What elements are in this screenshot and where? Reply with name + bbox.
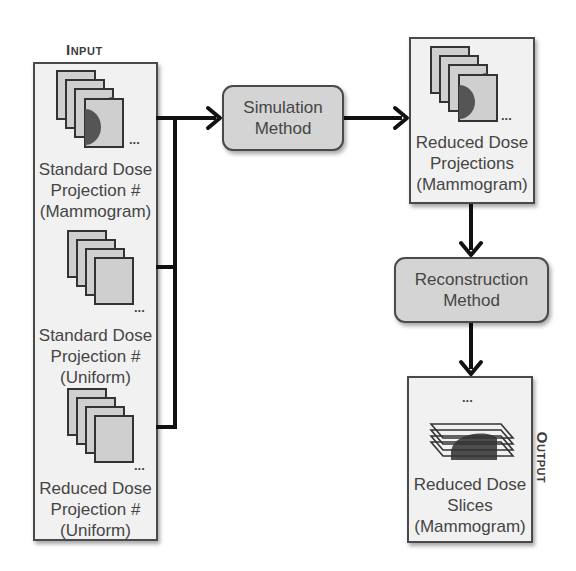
output-line3: (Mammogram) (409, 516, 531, 537)
simulation-line2: Method (255, 118, 312, 139)
output-line1: Reduced Dose (409, 474, 531, 495)
simulation-method-box: Simulation Method (222, 85, 344, 151)
simulation-line1: Simulation (243, 97, 322, 118)
output-ellipsis: ... (462, 390, 473, 405)
stacked-slices-icon (429, 424, 519, 469)
reconstruction-line2: Method (443, 290, 500, 311)
reduced-projections-line1: Reduced Dose (411, 132, 533, 153)
reduced-projections-ellipsis: ... (501, 108, 512, 123)
mammogram-stack-icon (431, 47, 531, 137)
output-line2: Slices (409, 495, 531, 516)
reconstruction-line1: Reconstruction (415, 269, 528, 290)
reduced-projections-line3: (Mammogram) (411, 174, 533, 195)
output-title: Output (534, 428, 551, 488)
output-box: ... Reduced Dose Slices (Mammogram) (407, 376, 533, 543)
reconstruction-method-box: Reconstruction Method (394, 257, 549, 323)
reduced-projections-line2: Projections (411, 153, 533, 174)
reduced-projections-box: ... Reduced Dose Projections (Mammogram) (409, 37, 535, 204)
